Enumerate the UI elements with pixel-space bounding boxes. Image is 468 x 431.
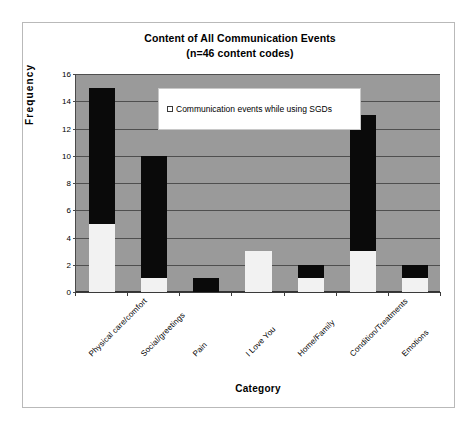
x-tick-mark — [336, 292, 337, 296]
bar-chart: Content of All Communication Events (n=4… — [0, 0, 468, 431]
x-category-label: Emotions — [400, 328, 431, 359]
x-tick-mark — [388, 292, 389, 296]
x-tick-mark — [284, 292, 285, 296]
x-axis-tick-labels: Physical care/comfortSocial/greetingsPai… — [0, 0, 468, 431]
legend-swatch-icon — [167, 106, 173, 112]
x-category-label: Home/Family — [296, 318, 336, 358]
legend-entry: Communication events while using SGDs — [167, 104, 332, 114]
x-category-label: Physical care/comfort — [87, 296, 149, 358]
x-tick-mark — [75, 292, 76, 296]
x-axis-title: Category — [75, 383, 441, 394]
x-category-label: Pain — [191, 340, 209, 358]
x-tick-mark — [127, 292, 128, 296]
x-category-label: Social/greetings — [139, 311, 187, 359]
x-category-label: I Love You — [244, 325, 277, 358]
x-tick-mark — [179, 292, 180, 296]
x-tick-mark — [440, 292, 441, 296]
chart-legend: Communication events while using SGDs — [158, 88, 361, 130]
x-tick-mark — [231, 292, 232, 296]
x-category-label: Condition/Treatments — [348, 297, 410, 359]
legend-label: Communication events while using SGDs — [176, 104, 332, 114]
